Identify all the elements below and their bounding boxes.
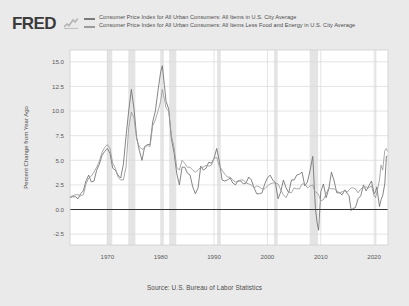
- y-tick-label: 2.5: [55, 181, 64, 188]
- source-caption: Source: U.S. Bureau of Labor Statistics: [0, 284, 409, 291]
- cpi-line-chart: 15.012.510.07.55.02.50.0-2.5197019801990…: [0, 42, 409, 272]
- chart-area: 15.012.510.07.55.02.50.0-2.5197019801990…: [0, 42, 409, 272]
- legend-entry: Consumer Price Index for All Urban Consu…: [84, 14, 402, 21]
- recession-band: [274, 50, 278, 245]
- recession-band: [128, 50, 135, 245]
- y-tick-label: 7.5: [55, 132, 64, 139]
- fred-logo: FRED: [12, 15, 56, 32]
- x-tick-label: 1980: [154, 253, 168, 260]
- y-tick-label: -2.5: [53, 230, 64, 237]
- y-tick-label: 12.5: [52, 83, 65, 90]
- line-chart-squiggle-icon: [64, 18, 78, 29]
- y-tick-label: 10.0: [52, 107, 65, 114]
- legend-entry: Consumer Price Index for All Urban Consu…: [84, 22, 402, 29]
- x-tick-label: 1970: [100, 253, 114, 260]
- recession-band: [217, 50, 221, 245]
- legend-swatch-series-2: [84, 26, 95, 28]
- x-tick-label: 1990: [207, 253, 221, 260]
- legend-label-series-2: Consumer Price Index for All Urban Consu…: [99, 22, 355, 29]
- chart-legend: Consumer Price Index for All Urban Consu…: [84, 14, 402, 29]
- fred-chart-page: FRED Consumer Price Index for All Urban …: [0, 0, 409, 306]
- legend-swatch-series-1: [84, 18, 95, 20]
- recession-band: [310, 50, 318, 245]
- chart-header: FRED Consumer Price Index for All Urban …: [0, 6, 409, 42]
- y-axis-title: Percent Change from Year Ago: [23, 105, 29, 188]
- y-tick-label: 5.0: [55, 157, 64, 164]
- x-tick-label: 2020: [367, 253, 381, 260]
- x-tick-label: 2000: [261, 253, 275, 260]
- y-tick-label: 15.0: [52, 58, 65, 65]
- plot-background: [70, 50, 388, 245]
- x-tick-label: 2010: [314, 253, 328, 260]
- y-tick-label: 0.0: [55, 206, 64, 213]
- legend-label-series-1: Consumer Price Index for All Urban Consu…: [99, 14, 296, 21]
- recession-band: [375, 50, 376, 245]
